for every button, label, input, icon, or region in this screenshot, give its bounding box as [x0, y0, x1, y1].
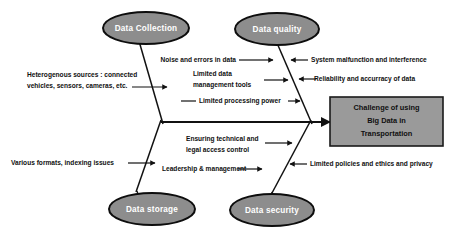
category-label-data-collection: Data Collection	[115, 24, 178, 33]
category-data-security[interactable]: Data security	[230, 194, 314, 226]
category-data-storage[interactable]: Data storage	[109, 193, 195, 225]
cause-label-system-malfunction: System malfunction and interference	[311, 56, 427, 64]
cause-label-limited-processing-power: Limited processing power	[199, 97, 281, 105]
cause-label-limited-data-management-tools-line-1: Limited data	[193, 70, 232, 77]
fishbone-diagram-canvas: Data Collection Data quality Data storag…	[0, 0, 454, 236]
cause-limited-processing-power: Limited processing power	[181, 97, 300, 105]
cause-label-ensuring-technical-legal-line-2: legal access control	[186, 146, 249, 154]
fishbone-diagram: Data Collection Data quality Data storag…	[0, 0, 454, 236]
cause-noise-errors: Noise and errors in data	[161, 56, 273, 63]
category-data-collection[interactable]: Data Collection	[103, 12, 189, 44]
effect-line-1: Challenge of using	[353, 103, 420, 112]
cause-system-malfunction: System malfunction and interference	[291, 56, 427, 64]
cause-label-limited-policies: Limited policies and ethics and privacy	[310, 160, 433, 168]
bone-data-collection	[139, 41, 163, 124]
cause-label-ensuring-technical-legal-line-1: Ensuring technical and	[186, 135, 259, 143]
cause-leadership-management: Leadership & management	[162, 165, 262, 173]
category-data-quality[interactable]: Data quality	[235, 13, 319, 45]
category-label-data-security: Data security	[245, 206, 299, 215]
effect-line-3: Transportation	[361, 129, 413, 138]
cause-label-reliability-accuracy: Reliability and accurracy of data	[314, 75, 415, 83]
cause-label-heterogenous-sources-line-2: vehicles, sensors, cameras, etc.	[27, 82, 128, 90]
cause-label-various-formats: Various formats, indexing issues	[11, 159, 114, 167]
bone-data-quality	[277, 43, 312, 124]
bone-data-storage	[136, 120, 161, 192]
cause-various-formats: Various formats, indexing issues	[11, 159, 155, 167]
cause-label-heterogenous-sources-line-1: Heterogenous sources : connected	[27, 71, 137, 79]
cause-limited-policies: Limited policies and ethics and privacy	[290, 160, 433, 168]
cause-label-leadership-management: Leadership & management	[162, 165, 247, 173]
cause-label-noise-errors: Noise and errors in data	[161, 56, 237, 63]
category-label-data-storage: Data storage	[126, 205, 178, 214]
category-label-data-quality: Data quality	[253, 25, 302, 34]
cause-heterogenous-sources: Heterogenous sources : connected vehicle…	[27, 71, 167, 90]
effect-line-2: Big Data in	[367, 116, 406, 125]
cause-limited-data-management-tools: Limited data management tools	[193, 70, 288, 89]
cause-reliability-accuracy: Reliability and accurracy of data	[299, 75, 415, 83]
cause-label-limited-data-management-tools-line-2: management tools	[193, 81, 252, 89]
effect-box[interactable]: Challenge of using Big Data in Transport…	[330, 97, 443, 146]
bone-data-security	[272, 120, 311, 193]
cause-ensuring-technical-legal: Ensuring technical and legal access cont…	[186, 135, 292, 154]
